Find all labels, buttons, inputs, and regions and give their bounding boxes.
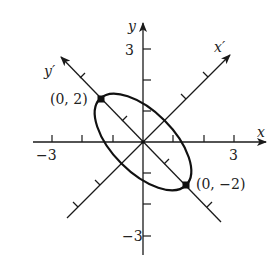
point-label-bottom: (0, −2)	[196, 176, 245, 192]
rotated-ellipse-figure: y x x′ y′ 3 −3 −3 3 (0, 2) (0, −2)	[0, 0, 279, 258]
point-label-top: (0, 2)	[50, 91, 88, 107]
y-prime-axis-label: y′	[43, 63, 56, 79]
point-marker-top	[98, 96, 105, 103]
y-axis-label: y	[127, 18, 137, 34]
diagram-canvas: y x x′ y′ 3 −3 −3 3 (0, 2) (0, −2)	[0, 0, 279, 258]
origin-dot	[141, 140, 145, 144]
x-tick-label-neg: −3	[36, 147, 57, 163]
y-tick-label-pos: 3	[125, 42, 134, 58]
y-tick-label-neg: −3	[122, 228, 143, 244]
y-prime-axis	[61, 57, 221, 222]
y-axis	[143, 23, 151, 255]
x-tick-label-pos: 3	[229, 147, 238, 163]
x-axis-label: x	[257, 124, 265, 140]
x-prime-axis-label: x′	[214, 39, 226, 55]
point-marker-bottom	[183, 182, 190, 189]
